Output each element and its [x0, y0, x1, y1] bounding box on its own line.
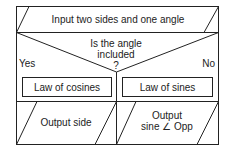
no-branch-label: No: [195, 58, 215, 69]
decision-question-mark: ?: [106, 60, 126, 71]
yes-branch-label: Yes: [19, 58, 43, 69]
output-side-label: Output side: [26, 117, 106, 128]
output-sine-label-line2: sine ∠ Opp: [127, 121, 207, 132]
input-parallelogram-right-edge: [204, 7, 219, 33]
input-step-label: Input two sides and one angle: [30, 14, 206, 25]
decision-label-line2: included: [66, 49, 166, 60]
law-of-sines-label: Law of sines: [123, 82, 212, 93]
decision-label-line1: Is the angle: [66, 38, 166, 49]
input-parallelogram-left-edge: [17, 7, 30, 33]
output-sine-label-line1: Output: [127, 110, 207, 121]
law-of-cosines-label: Law of cosines: [23, 82, 111, 93]
